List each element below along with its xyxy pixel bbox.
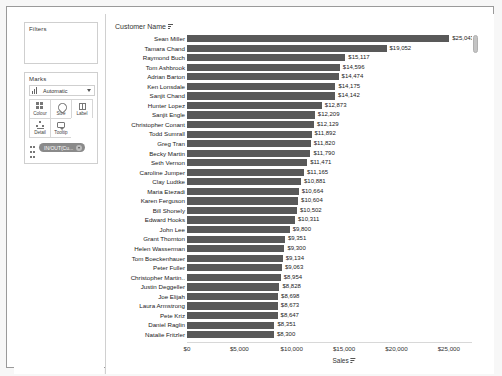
bar[interactable]	[187, 188, 299, 195]
row-field-header[interactable]: Customer Name	[115, 23, 173, 30]
bar[interactable]	[187, 264, 282, 271]
bar[interactable]	[187, 322, 274, 329]
vertical-scrollbar-thumb[interactable]	[473, 35, 478, 53]
bar-row[interactable]: Natalie Fritzler$8,300	[107, 330, 478, 340]
bar-row-label: Karen Ferguson	[107, 196, 187, 206]
marks-card[interactable]: Marks Automatic Colour Size	[24, 72, 98, 164]
bar-row[interactable]: Sean Miller$25,043	[107, 34, 478, 44]
bar-row[interactable]: Todd Sumrall$11,892	[107, 129, 478, 139]
bar[interactable]	[187, 140, 311, 147]
shelf-panel: Filters Marks Automatic Colour	[14, 14, 104, 374]
bar-row[interactable]: Adrian Barton$14,474	[107, 72, 478, 82]
bar-value-label: $9,800	[293, 225, 311, 235]
bar-track: $19,052	[187, 44, 478, 54]
bar[interactable]	[187, 283, 279, 290]
sort-descending-icon[interactable]	[351, 358, 356, 364]
bar-row[interactable]: Tom Ashbrook$14,596	[107, 63, 478, 73]
tableau-worksheet: Filters Marks Automatic Colour	[0, 0, 502, 376]
bar-value-label: $11,790	[313, 149, 334, 159]
bar[interactable]	[187, 302, 278, 309]
marks-colour-button[interactable]: Colour	[29, 99, 51, 119]
bar-value-label: $8,300	[277, 330, 295, 340]
x-axis-title[interactable]: Sales	[332, 357, 355, 364]
marks-tooltip-button[interactable]: Tooltip	[50, 118, 72, 138]
bar[interactable]	[187, 45, 387, 52]
bar-value-label: $19,052	[390, 44, 412, 54]
marks-tooltip-label: Tooltip	[54, 130, 67, 135]
bar-row[interactable]: Maria Etezadi$10,664	[107, 187, 478, 197]
chevron-down-icon[interactable]	[76, 145, 82, 151]
bar[interactable]	[187, 54, 345, 61]
bar-row[interactable]: Karen Ferguson$10,604	[107, 196, 478, 206]
bar-row[interactable]: Helen Wasserman$9,300	[107, 244, 478, 254]
bar[interactable]	[187, 178, 301, 185]
bar-row[interactable]: Peter Fuller$9,063	[107, 263, 478, 273]
bar-row[interactable]: Sanjit Engle$12,209	[107, 110, 478, 120]
bar[interactable]	[187, 312, 278, 319]
bar[interactable]	[187, 92, 335, 99]
bar-row[interactable]: Joe Elijah$8,698	[107, 292, 478, 302]
bar-row[interactable]: Becky Martin$11,790	[107, 149, 478, 159]
bar[interactable]	[187, 226, 290, 233]
bar[interactable]	[187, 207, 297, 214]
bar-row[interactable]: Laura Armstrong$8,673	[107, 301, 478, 311]
bar-row[interactable]: Seth Vernon$11,471	[107, 158, 478, 168]
bar-row[interactable]: Caroline Jumper$11,165	[107, 168, 478, 178]
bar-row[interactable]: Clay Ludtke$10,881	[107, 177, 478, 187]
bar-row[interactable]: Bill Shonely$10,502	[107, 206, 478, 216]
bar[interactable]	[187, 111, 315, 118]
bar[interactable]	[187, 131, 312, 138]
bar-track: $25,043	[187, 34, 478, 44]
bar[interactable]	[187, 102, 322, 109]
bar-row[interactable]: Raymond Buch$15,117	[107, 53, 478, 63]
sort-descending-icon[interactable]	[168, 24, 173, 30]
filters-card[interactable]: Filters	[24, 22, 98, 64]
bar-row[interactable]: Ken Lonsdale$14,175	[107, 82, 478, 92]
bar-value-label: $11,165	[307, 168, 328, 178]
bar-row[interactable]: Tamara Chand$19,052	[107, 44, 478, 54]
bar[interactable]	[187, 64, 340, 71]
bar-value-label: $10,664	[302, 187, 324, 197]
bar-row-label: Justin Deggeller	[107, 282, 187, 292]
marks-button-empty-slot	[71, 118, 93, 138]
x-axis-tick: $15,000	[333, 345, 355, 352]
bar-row[interactable]: Pete Kriz$8,647	[107, 311, 478, 321]
bar[interactable]	[187, 73, 339, 80]
bar-track: $14,474	[187, 72, 478, 82]
marks-set-pill[interactable]: IN/OUT(Cu...	[39, 143, 85, 152]
bar[interactable]	[187, 216, 295, 223]
bar-row[interactable]: Justin Deggeller$8,828	[107, 282, 478, 292]
bar[interactable]	[187, 159, 307, 166]
marks-label-button[interactable]: Label	[71, 99, 93, 119]
bar[interactable]	[187, 274, 281, 281]
bar[interactable]	[187, 150, 310, 157]
bar[interactable]	[187, 293, 278, 300]
bar[interactable]	[187, 121, 314, 128]
bar[interactable]	[187, 197, 298, 204]
x-axis: $0$5,000$10,000$15,000$20,000$25,000Sale…	[107, 342, 478, 374]
bar[interactable]	[187, 236, 285, 243]
marks-type-dropdown[interactable]: Automatic	[29, 85, 95, 96]
vertical-scrollbar[interactable]	[472, 14, 480, 374]
bar[interactable]	[187, 83, 335, 90]
bar-row[interactable]: Christopher Conant$12,129	[107, 120, 478, 130]
bar-row[interactable]: John Lee$9,800	[107, 225, 478, 235]
bar[interactable]	[187, 255, 283, 262]
bar-row-label: Todd Sumrall	[107, 129, 187, 139]
bar-row[interactable]: Hunter Lopez$12,873	[107, 101, 478, 111]
bar-row-label: Tom Boeckenhauer	[107, 254, 187, 264]
bar-row[interactable]: Tom Boeckenhauer$9,134	[107, 254, 478, 264]
bar-row[interactable]: Greg Tran$11,820	[107, 139, 478, 149]
bar-row[interactable]: Daniel Raglin$8,351	[107, 320, 478, 330]
bar[interactable]	[187, 169, 304, 176]
bar[interactable]	[187, 331, 274, 338]
marks-size-button[interactable]: Size	[50, 99, 72, 119]
bar-row[interactable]: Sanjit Chand$14,142	[107, 91, 478, 101]
bar[interactable]	[187, 35, 449, 42]
bar[interactable]	[187, 245, 284, 252]
drag-handle-icon[interactable]	[29, 144, 36, 152]
bar-row[interactable]: Christopher Martin..$8,954	[107, 273, 478, 283]
bar-row[interactable]: Edward Hooks$10,311	[107, 215, 478, 225]
marks-detail-button[interactable]: Detail	[29, 118, 51, 138]
bar-row[interactable]: Grant Thornton$9,351	[107, 234, 478, 244]
